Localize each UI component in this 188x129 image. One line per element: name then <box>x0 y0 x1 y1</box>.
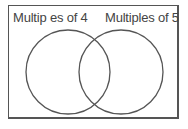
venn-diagram <box>0 0 188 129</box>
arc-gap <box>106 50 112 53</box>
arc-gap <box>106 91 112 94</box>
circle-multiples-of-5 <box>79 30 163 114</box>
circle-multiples-of-4 <box>26 30 110 114</box>
